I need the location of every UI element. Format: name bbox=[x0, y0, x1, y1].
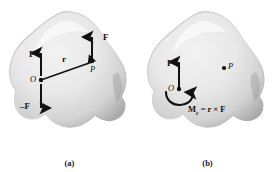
f-symbol: F bbox=[220, 104, 225, 114]
point-o-marker bbox=[39, 78, 43, 82]
label-force-down-at-o: –F bbox=[20, 102, 30, 111]
point-p-marker bbox=[90, 59, 94, 63]
label-point-p: P bbox=[90, 65, 95, 74]
label-force-up-at-p: F bbox=[103, 33, 109, 42]
panel-a: F F –F r O P (a) bbox=[0, 0, 139, 172]
panel-b: F O P Mc=r×F (b) bbox=[138, 0, 277, 172]
label-point-o: O bbox=[30, 75, 36, 84]
cross-product-sign: × bbox=[211, 104, 220, 114]
point-p-marker bbox=[222, 66, 226, 70]
moment-symbol: M bbox=[188, 104, 196, 114]
label-force-up-at-o: F bbox=[167, 59, 173, 68]
panel-a-caption: (a) bbox=[0, 158, 139, 168]
equals-sign: = bbox=[199, 104, 208, 114]
point-o-marker bbox=[177, 87, 181, 91]
label-position-vector-r: r bbox=[62, 55, 66, 64]
label-force-up-at-o: F bbox=[29, 50, 35, 59]
label-point-o: O bbox=[168, 84, 174, 93]
moment-equation: Mc=r×F bbox=[188, 105, 225, 116]
panel-b-drawing bbox=[138, 0, 277, 172]
label-point-p: P bbox=[228, 62, 233, 71]
panel-a-drawing bbox=[0, 0, 139, 172]
panel-b-caption: (b) bbox=[138, 158, 277, 168]
